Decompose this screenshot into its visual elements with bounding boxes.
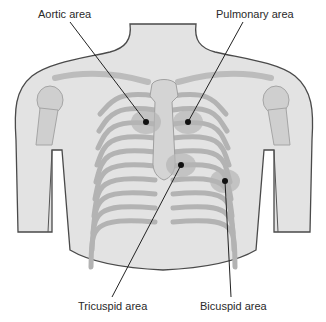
- aortic-area-label: Aortic area: [38, 8, 91, 21]
- pulmonary-area-label: Pulmonary area: [216, 8, 294, 21]
- tricuspid-area-label: Tricuspid area: [78, 300, 147, 313]
- pulmonary-marker-dot: [185, 119, 191, 125]
- bicuspid-area-label: Bicuspid area: [200, 300, 267, 313]
- chest-illustration: [0, 0, 326, 322]
- tricuspid-marker-dot: [178, 162, 184, 168]
- auscultation-diagram: Aortic areaPulmonary areaTricuspid areaB…: [0, 0, 326, 322]
- bicuspid-marker-dot: [222, 178, 228, 184]
- aortic-marker-dot: [143, 119, 149, 125]
